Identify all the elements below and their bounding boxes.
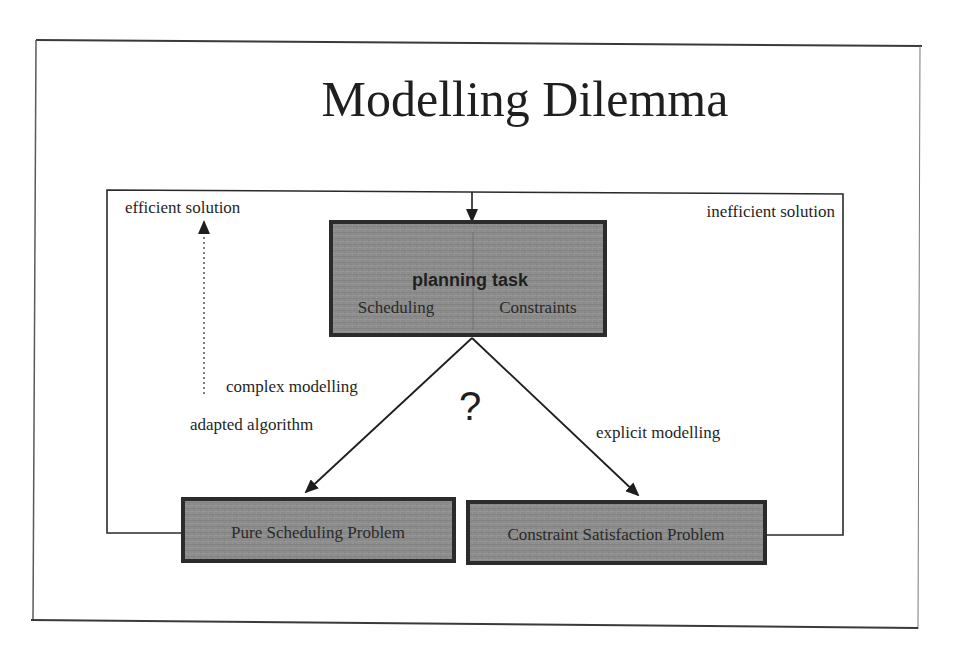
arrow-to-constraint-satisfaction <box>472 338 638 495</box>
planning-task-title: planning task <box>412 270 529 290</box>
frame-right-border <box>918 46 920 629</box>
slide-title: Modelling Dilemma <box>322 71 729 127</box>
pure-scheduling-problem-box[interactable]: Pure Scheduling Problem <box>183 499 454 561</box>
arrow-to-pure-scheduling <box>306 338 472 492</box>
planning-task-constraints-label: Constraints <box>499 298 576 317</box>
planning-task-scheduling-label: Scheduling <box>358 298 435 317</box>
frame-top-border <box>36 40 922 46</box>
constraint-satisfaction-problem-box[interactable]: Constraint Satisfaction Problem <box>468 502 765 563</box>
modelling-dilemma-diagram: Modelling Dilemma efficient solution ine… <box>0 0 956 657</box>
adapted-algorithm-label: adapted algorithm <box>190 415 313 434</box>
inefficient-solution-label: inefficient solution <box>706 202 835 221</box>
complex-modelling-label: complex modelling <box>226 377 358 396</box>
question-mark: ? <box>459 384 481 428</box>
pure-scheduling-label: Pure Scheduling Problem <box>231 523 405 542</box>
frame-bottom-border <box>31 620 918 628</box>
frame-left-border <box>33 40 36 621</box>
efficient-solution-label: efficient solution <box>125 198 241 217</box>
explicit-modelling-label: explicit modelling <box>596 423 721 442</box>
planning-task-box[interactable]: planning task Scheduling Constraints <box>331 222 605 335</box>
constraint-satisfaction-label: Constraint Satisfaction Problem <box>507 525 724 544</box>
